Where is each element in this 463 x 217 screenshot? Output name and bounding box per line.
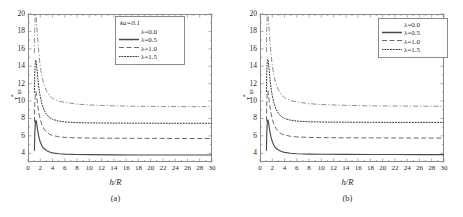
legend-label: λ=0.0 [404,22,420,29]
y-axis-title-superscript: * [10,94,16,97]
panel-caption: (b) [232,193,463,203]
y-axis-title-subscript: ηz [248,89,254,94]
series-line-1 [34,91,212,138]
legend-swatch-solid [382,22,402,29]
legend-entry[interactable]: λ=1.5 [119,53,181,62]
y-axis-tick-label: 6 [238,132,257,140]
legend-entry[interactable]: λ=1.5 [382,47,444,56]
legend-label: λ=0.5 [141,37,157,44]
x-axis-tick-label: 30 [435,165,453,172]
chart-panel-a: 4681012141618200246810121416182022242628… [0,0,231,217]
x-axis-tick-label: 30 [203,165,221,172]
legend-swatch-dashed [382,30,402,37]
y-axis-tick-label: 20 [6,10,25,18]
y-axis-tick-label: 4 [238,149,257,157]
figure-container: 4681012141618200246810121416182022242628… [0,0,463,217]
legend-entry[interactable]: λ=0.5 [382,30,444,39]
series-line-2 [34,60,212,123]
series-line-0 [34,120,212,155]
y-axis-tick-label: 18 [6,27,25,35]
y-axis-title-base: τ [12,97,21,100]
legend-entry[interactable]: λ=1.0 [119,45,181,54]
y-axis-tick-label: 20 [238,10,257,18]
legend-swatch-dashed [119,37,139,44]
legend-label: λ=0.0 [141,29,157,36]
y-axis-title-base: τ [244,97,253,100]
chart-legend: ka=0.1λ=0.0λ=0.5λ=1.0λ=1.5 [115,16,185,65]
y-axis-tick-label: 8 [6,114,25,122]
legend-label: λ=1.5 [141,54,157,61]
y-axis-tick-label: 14 [238,62,257,70]
chart-panel-b: 4681012141618200246810121416182022242628… [232,0,463,217]
series-line-1 [266,91,444,138]
series-line-2 [266,59,444,122]
y-axis-tick-label: 12 [6,80,25,88]
legend-swatch-dashdot [382,47,402,54]
y-axis-tick-label: 16 [238,45,257,53]
y-axis-title: τ*ηz [242,89,255,100]
y-axis-title-superscript: * [242,94,248,97]
legend-entry[interactable]: λ=1.0 [382,38,444,47]
legend-entry[interactable]: λ=0.5 [119,36,181,45]
legend-entry[interactable]: λ=0.0 [119,28,181,37]
legend-swatch-dashdot [119,54,139,61]
x-axis-title: h/R [0,177,231,187]
legend-label: λ=0.5 [404,30,420,37]
y-axis-tick-label: 16 [6,45,25,53]
x-axis-title: h/R [232,177,463,187]
y-axis-tick-label: 6 [6,132,25,140]
legend-label: λ=1.0 [404,39,420,46]
series-line-0 [266,120,444,155]
y-axis-title-subscript: ηz [16,89,22,94]
y-axis-tick-label: 12 [238,80,257,88]
chart-legend: λ=0.0λ=0.5λ=1.0λ=1.5 [378,18,448,58]
panel-caption: (a) [0,193,231,203]
y-axis-tick-label: 8 [238,114,257,122]
legend-swatch-dotted [119,46,139,53]
legend-swatch-dotted [382,39,402,46]
y-axis-tick-label: 14 [6,62,25,70]
legend-label: λ=1.0 [141,46,157,53]
y-axis-title: τ*ηz [10,89,23,100]
legend-label: λ=1.5 [404,47,420,54]
legend-header: ka=0.1 [119,19,181,28]
legend-entry[interactable]: λ=0.0 [382,21,444,30]
y-axis-tick-label: 18 [238,27,257,35]
y-axis-tick-label: 4 [6,149,25,157]
legend-swatch-solid [119,29,139,36]
